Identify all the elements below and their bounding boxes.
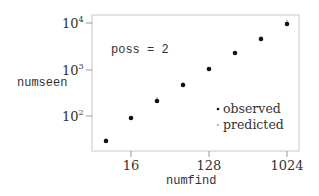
legend-predicted-marker bbox=[217, 124, 219, 126]
annotation-poss: poss = 2 bbox=[111, 43, 169, 57]
y-axis: 104 103 102 numseen bbox=[17, 15, 92, 124]
x-tick-16: 16 bbox=[123, 158, 140, 173]
chart: 104 103 102 numseen 16 128 1024 numfind … bbox=[0, 0, 319, 196]
y-axis-label: numseen bbox=[17, 76, 67, 90]
y-tick-100: 102 bbox=[62, 108, 84, 124]
y-tick-10000: 104 bbox=[62, 15, 84, 31]
legend-predicted-label: predicted bbox=[223, 117, 284, 132]
legend-observed-marker bbox=[217, 108, 220, 111]
legend: observed predicted bbox=[217, 101, 284, 132]
legend-observed-label: observed bbox=[223, 101, 281, 116]
x-axis: 16 128 1024 numfind bbox=[123, 151, 304, 188]
x-tick-128: 128 bbox=[197, 158, 222, 173]
x-axis-label: numfind bbox=[166, 174, 216, 188]
x-tick-1024: 1024 bbox=[270, 158, 303, 173]
